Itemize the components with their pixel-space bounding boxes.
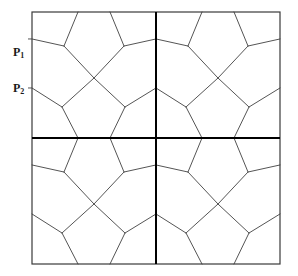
tile-edge — [188, 46, 218, 78]
tile-edge — [156, 88, 186, 107]
tile-edge — [218, 78, 249, 107]
tile-edge — [94, 172, 124, 204]
tile-edge — [125, 88, 156, 107]
tiling-quadrant-bottom-left — [32, 138, 156, 264]
tile-edge — [94, 78, 125, 107]
tile-edge — [156, 165, 188, 172]
tile-edge — [234, 12, 248, 46]
tile-edge — [62, 78, 94, 107]
tiling-diagram — [0, 0, 298, 276]
tile-edge — [186, 78, 218, 107]
label-p2: P2 — [13, 82, 24, 94]
label-p1: P1 — [13, 46, 24, 58]
tile-edge — [234, 138, 248, 172]
tile-edge — [186, 204, 218, 233]
tile-edge — [62, 204, 94, 233]
tile-edge — [32, 165, 64, 172]
tile-edge — [188, 12, 202, 46]
tile-edge — [125, 214, 156, 233]
tile-edge — [186, 233, 202, 264]
tile-edge — [188, 138, 202, 172]
tile-edge — [218, 204, 249, 233]
tile-edge — [64, 172, 94, 204]
tile-edge — [156, 214, 186, 233]
tile-edge — [94, 46, 124, 78]
tile-edge — [110, 233, 125, 264]
tile-edge — [64, 12, 78, 46]
tile-edge — [94, 204, 125, 233]
tile-edge — [234, 233, 249, 264]
tile-edge — [32, 39, 64, 46]
tiling-quadrant-bottom-right — [156, 138, 280, 264]
label-p1-subscript: 1 — [20, 51, 24, 60]
tile-edge — [32, 214, 62, 233]
tiling-quadrant-top-left — [32, 12, 156, 138]
tile-edge — [248, 39, 280, 46]
tile-edge — [110, 12, 124, 46]
tile-edge — [156, 39, 188, 46]
tile-edge — [62, 233, 78, 264]
tile-edge — [64, 138, 78, 172]
tile-edge — [249, 214, 280, 233]
tile-edge — [186, 107, 202, 138]
tile-edge — [218, 172, 248, 204]
tile-edge — [124, 165, 156, 172]
tile-edge — [249, 88, 280, 107]
tile-edge — [234, 107, 249, 138]
tile-edge — [110, 107, 125, 138]
tile-edge — [110, 138, 124, 172]
tile-edge — [64, 46, 94, 78]
figure-root: P1 P2 — [0, 0, 298, 276]
tile-edge — [188, 172, 218, 204]
tile-edge — [62, 107, 78, 138]
label-p2-subscript: 2 — [20, 87, 24, 96]
tile-edge — [124, 39, 156, 46]
tiling-quadrant-top-right — [156, 12, 280, 138]
tile-edge — [248, 165, 280, 172]
tile-edge — [218, 46, 248, 78]
tile-edge — [32, 88, 62, 107]
